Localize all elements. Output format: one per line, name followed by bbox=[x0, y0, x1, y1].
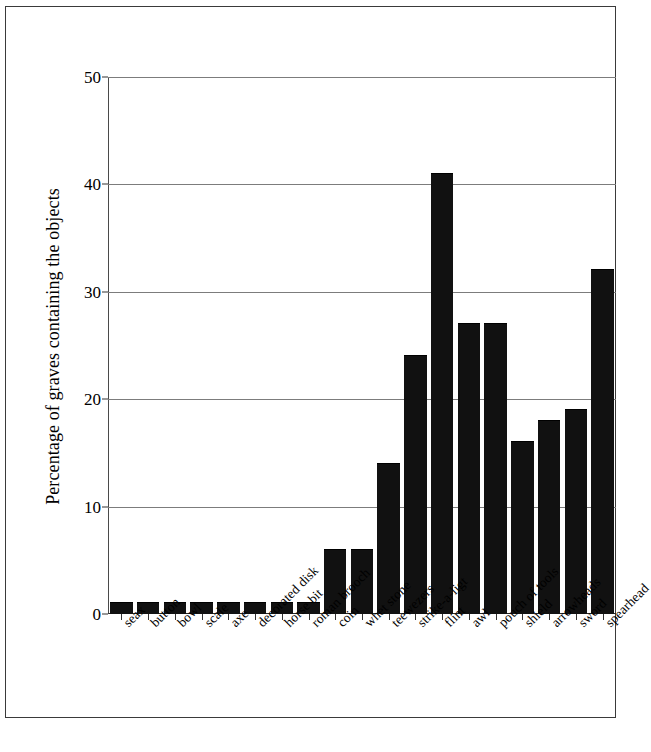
bar bbox=[591, 269, 613, 614]
bar bbox=[404, 355, 426, 614]
bar-slot bbox=[562, 77, 589, 614]
bar-slot bbox=[268, 77, 295, 614]
bar-slot bbox=[295, 77, 322, 614]
bar-slot bbox=[349, 77, 376, 614]
y-tick-label-10: 10 bbox=[84, 498, 101, 515]
y-tick-label-30: 30 bbox=[84, 283, 101, 300]
y-tick-label-20: 20 bbox=[84, 391, 101, 408]
bar-slot bbox=[161, 77, 188, 614]
bar-slot bbox=[589, 77, 616, 614]
bar-slot bbox=[135, 77, 162, 614]
y-tick-label-0: 0 bbox=[93, 606, 102, 623]
bar-slot bbox=[242, 77, 269, 614]
x-axis-labels: seaxbuttonbowlscaleaxedecorated diskhors… bbox=[108, 614, 616, 724]
y-tick-label-40: 40 bbox=[84, 176, 101, 193]
bar-slot bbox=[509, 77, 536, 614]
bar-slot bbox=[402, 77, 429, 614]
bar bbox=[484, 323, 506, 614]
y-axis-title: Percentage of graves containing the obje… bbox=[43, 67, 64, 627]
bar bbox=[458, 323, 480, 614]
bar-slot bbox=[456, 77, 483, 614]
bar-slot bbox=[322, 77, 349, 614]
bar-slot bbox=[482, 77, 509, 614]
bar-slot bbox=[188, 77, 215, 614]
bar-slot bbox=[536, 77, 563, 614]
bar bbox=[431, 173, 453, 614]
bar-slot bbox=[429, 77, 456, 614]
y-tick-label-50: 50 bbox=[84, 69, 101, 86]
bar-slot bbox=[108, 77, 135, 614]
bar-slot bbox=[215, 77, 242, 614]
bar-series bbox=[108, 77, 616, 614]
plot-area: 01020304050 bbox=[108, 77, 616, 614]
bar-slot bbox=[375, 77, 402, 614]
